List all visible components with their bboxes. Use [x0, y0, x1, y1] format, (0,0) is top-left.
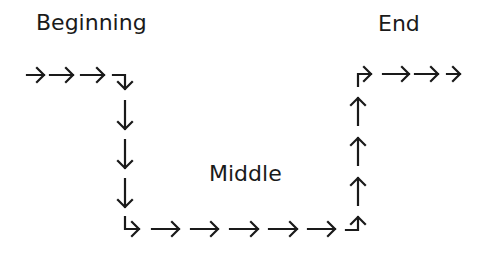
up-arrow-icon	[351, 98, 365, 125]
right-arrow-icon	[152, 222, 179, 236]
down-arrow-icon	[118, 179, 132, 207]
right-arrow-icon	[81, 68, 104, 82]
up-arrow-icon	[351, 178, 365, 205]
right-arrow-icon	[230, 222, 258, 236]
right-arrow-icon	[269, 222, 297, 236]
right-arrow-icon	[50, 68, 73, 82]
corner-right-up-arrow-icon	[346, 217, 365, 230]
arrow-path	[0, 0, 485, 257]
path-diagram: Beginning Middle End	[0, 0, 485, 257]
right-arrow-icon	[447, 67, 460, 81]
down-arrow-icon	[118, 101, 132, 129]
corner-right-down-arrow-icon	[113, 75, 132, 89]
up-arrow-icon	[351, 138, 365, 165]
right-arrow-icon	[27, 68, 44, 82]
right-arrow-icon	[383, 67, 409, 81]
corner-down-right-arrow-icon	[125, 217, 139, 236]
right-arrow-icon	[308, 222, 335, 236]
down-arrow-icon	[118, 140, 132, 168]
corner-up-right-arrow-icon	[358, 67, 371, 86]
right-arrow-icon	[415, 67, 438, 81]
right-arrow-icon	[191, 222, 218, 236]
